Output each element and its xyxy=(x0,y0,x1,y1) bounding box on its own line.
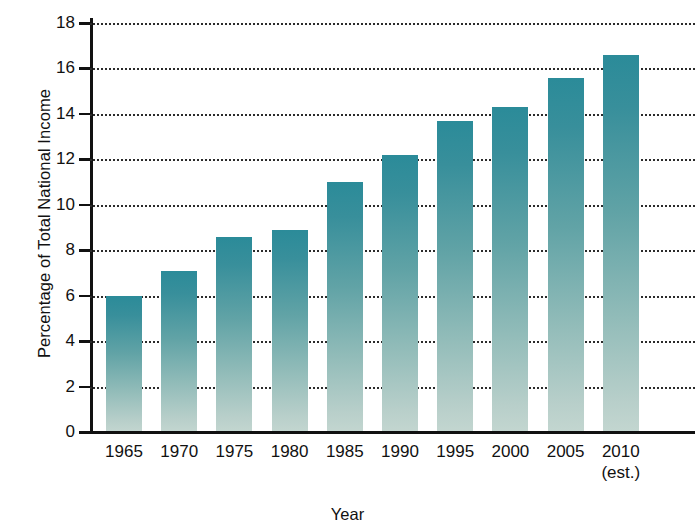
y-axis-tick xyxy=(79,386,90,389)
x-axis-tick-label-year: 2010 xyxy=(602,442,640,461)
y-axis-tick-label: 6 xyxy=(41,287,75,304)
x-axis-tick-label: 2010(est.) xyxy=(586,441,656,484)
y-axis-tick xyxy=(79,22,90,25)
x-axis-tick-label-year: 2000 xyxy=(491,442,529,461)
x-axis-tick-label-year: 1995 xyxy=(436,442,474,461)
y-axis-tick-label: 10 xyxy=(41,196,75,213)
y-axis-tick-labels: 181614121086420 xyxy=(39,23,75,432)
bar xyxy=(327,182,363,432)
x-axis-tick-label-year: 1970 xyxy=(160,442,198,461)
y-axis-tick-label: 2 xyxy=(41,378,75,395)
y-axis-tick-label: 14 xyxy=(41,105,75,122)
y-axis-tick-label: 0 xyxy=(41,423,75,440)
y-axis-tick-label: 4 xyxy=(41,332,75,349)
y-axis-tick-label: 16 xyxy=(41,59,75,76)
bar xyxy=(106,296,142,432)
y-axis-tick xyxy=(79,113,90,116)
x-axis-tick-label-year: 1990 xyxy=(381,442,419,461)
bar xyxy=(161,271,197,432)
y-axis-tick xyxy=(79,340,90,343)
bar xyxy=(437,121,473,432)
bar-chart: Percentage of Total National Income 1816… xyxy=(0,0,695,530)
x-axis-tick-labels: 1965197019751980198519901995200020052010… xyxy=(90,441,695,501)
x-axis-title: Year xyxy=(0,505,695,524)
bar xyxy=(548,78,584,432)
y-axis-tick-label: 8 xyxy=(41,241,75,258)
x-axis-tick-label-year: 2005 xyxy=(547,442,585,461)
x-axis-tick-sublabel: (est.) xyxy=(586,462,656,483)
x-axis-tick-label-year: 1985 xyxy=(326,442,364,461)
y-axis-tick xyxy=(79,158,90,161)
x-axis-tick-label-year: 1980 xyxy=(271,442,309,461)
y-axis-tick xyxy=(79,249,90,252)
y-axis-tick-label: 12 xyxy=(41,150,75,167)
bar xyxy=(216,237,252,432)
bar xyxy=(382,155,418,432)
bar xyxy=(603,55,639,432)
bar xyxy=(492,107,528,432)
bar xyxy=(272,230,308,432)
y-axis-tick xyxy=(79,67,90,70)
y-axis-tick xyxy=(79,295,90,298)
y-axis-tick xyxy=(79,204,90,207)
y-axis-tick-label: 18 xyxy=(41,14,75,31)
x-axis-line xyxy=(89,431,695,434)
x-axis-tick-label-year: 1975 xyxy=(215,442,253,461)
x-axis-tick-label-year: 1965 xyxy=(105,442,143,461)
bars-layer xyxy=(90,23,695,432)
